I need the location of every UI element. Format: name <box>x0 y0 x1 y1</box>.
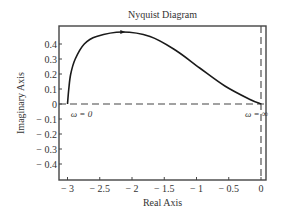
y-tick-label: − 0.4 <box>36 159 57 170</box>
x-tick-label: 0 <box>259 183 264 194</box>
x-tick-label: − 2 <box>125 183 138 194</box>
omega-zero-label: ω = 0 <box>71 109 93 119</box>
nyquist-curve-path <box>68 32 262 104</box>
y-tick-label: 0.2 <box>45 69 58 80</box>
x-tick-label: − 3 <box>61 183 74 194</box>
y-tick-label: − 0.2 <box>36 129 57 140</box>
plot-border <box>59 26 266 180</box>
plot-frame <box>59 26 266 180</box>
y-tick-label: 0.4 <box>45 39 58 50</box>
x-tick-label: − 0.5 <box>218 183 239 194</box>
y-tick-label: 0.1 <box>45 84 58 95</box>
y-tick-label: 0 <box>52 99 57 110</box>
nyquist-plot: − 3− 2.5− 2− 1.5− 1− 0.500.40.30.20.10− … <box>0 0 281 219</box>
y-tick-label: − 0.3 <box>36 144 57 155</box>
reference-lines <box>59 26 266 180</box>
x-tick-label: − 2.5 <box>89 183 110 194</box>
y-tick-label: − 0.1 <box>36 114 57 125</box>
x-tick-label: − 1.5 <box>154 183 175 194</box>
nyquist-curve <box>68 30 262 104</box>
annotations: ω = 0ω = ∞ <box>71 109 268 119</box>
y-tick-label: 0.3 <box>45 54 58 65</box>
direction-arrow-icon <box>120 30 125 34</box>
omega-infinity-label: ω = ∞ <box>245 109 268 119</box>
x-tick-label: − 1 <box>190 183 203 194</box>
